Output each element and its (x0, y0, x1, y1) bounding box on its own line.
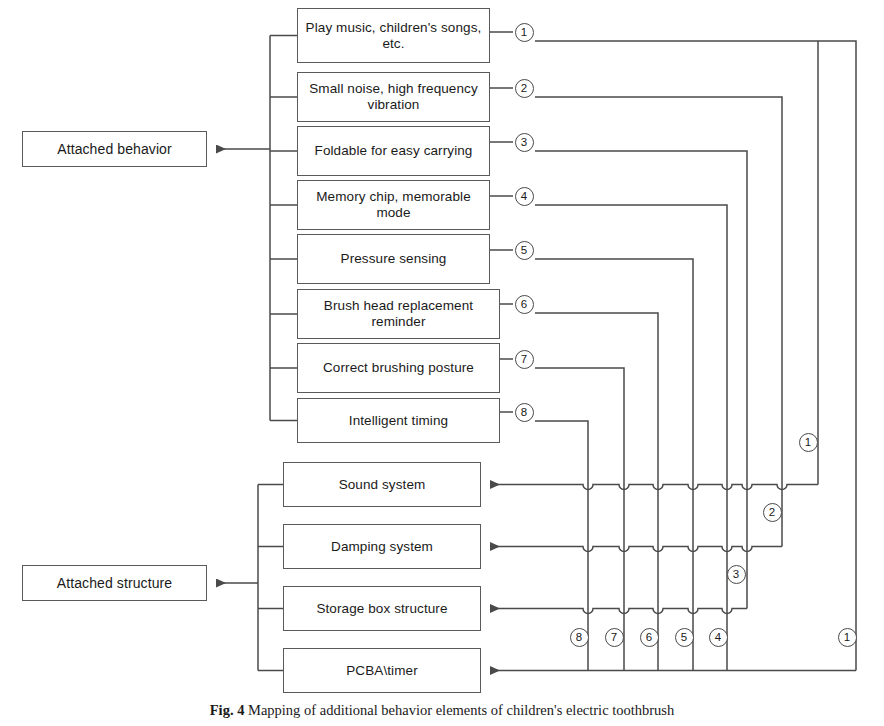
node-label: Correct brushing posture (323, 360, 474, 376)
node-label: Memory chip, memorable mode (302, 189, 485, 221)
number-marker-source-8-7: 8 (515, 403, 534, 422)
number-marker-target-8-3: 8 (570, 628, 589, 647)
behavior-box-3[interactable]: Foldable for easy carrying (297, 126, 490, 176)
route-3-storage (535, 151, 747, 609)
behavior-box-8[interactable]: Intelligent timing (297, 398, 500, 443)
number-marker-target-3-2: 3 (727, 565, 746, 584)
bus-damping-system (490, 547, 782, 552)
number-marker-target-1-8: 1 (838, 628, 857, 647)
route-7-pcba (535, 368, 624, 671)
number-marker-source-5-4: 5 (515, 241, 534, 260)
number-marker-target-7-4: 7 (605, 628, 624, 647)
structure-box-storage-box-structure[interactable]: Storage box structure (283, 586, 481, 631)
node-label: Intelligent timing (349, 413, 448, 429)
structure-box-pcba-timer[interactable]: PCBA\timer (283, 648, 481, 693)
number-marker-target-5-6: 5 (675, 628, 694, 647)
number-marker-source-7-6: 7 (515, 350, 534, 369)
structure-box-sound-system[interactable]: Sound system (283, 462, 481, 507)
number-marker-target-1-0: 1 (799, 433, 818, 452)
node-label: Damping system (331, 539, 433, 555)
behavior-box-6[interactable]: Brush head replacement reminder (297, 289, 500, 339)
bus-sound-system (490, 485, 818, 490)
bus-storage-box (490, 609, 747, 614)
node-label: Attached behavior (57, 141, 172, 158)
behavior-box-4[interactable]: Memory chip, memorable mode (297, 180, 490, 230)
number-marker-source-2-1: 2 (515, 79, 534, 98)
figure-caption: Fig. 4 Mapping of additional behavior el… (0, 702, 884, 726)
route-6-pcba (535, 313, 658, 671)
node-label: Attached structure (57, 575, 172, 592)
number-marker-source-1-0: 1 (515, 23, 534, 42)
number-marker-target-2-1: 2 (763, 503, 782, 522)
behavior-box-1[interactable]: Play music, children's songs, etc. (297, 8, 490, 63)
node-label: Brush head replacement reminder (302, 298, 495, 330)
number-marker-source-4-3: 4 (515, 187, 534, 206)
figure-caption-label: Fig. 4 (210, 702, 245, 718)
behavior-box-7[interactable]: Correct brushing posture (297, 343, 500, 393)
route-4-pcba (535, 205, 727, 671)
route-1-pcba (535, 41, 856, 671)
behavior-box-2[interactable]: Small noise, high frequency vibration (297, 72, 490, 122)
structure-box-damping-system[interactable]: Damping system (283, 524, 481, 569)
node-label: PCBA\timer (346, 663, 418, 679)
node-label: Storage box structure (316, 601, 447, 617)
number-marker-target-6-5: 6 (640, 628, 659, 647)
node-label: Small noise, high frequency vibration (302, 81, 485, 113)
number-marker-source-3-2: 3 (515, 133, 534, 152)
figure-caption-text: Mapping of additional behavior elements … (248, 702, 674, 718)
node-attached-structure[interactable]: Attached structure (22, 565, 207, 601)
behavior-box-5[interactable]: Pressure sensing (297, 234, 490, 284)
node-label: Pressure sensing (341, 251, 447, 267)
node-label: Sound system (339, 477, 426, 493)
number-marker-source-6-5: 6 (515, 295, 534, 314)
figure-canvas: Attached behavior Attached structure Pla… (0, 0, 884, 726)
number-marker-target-4-7: 4 (709, 628, 728, 647)
node-label: Play music, children's songs, etc. (302, 20, 485, 52)
node-label: Foldable for easy carrying (315, 143, 473, 159)
node-attached-behavior[interactable]: Attached behavior (22, 131, 207, 167)
